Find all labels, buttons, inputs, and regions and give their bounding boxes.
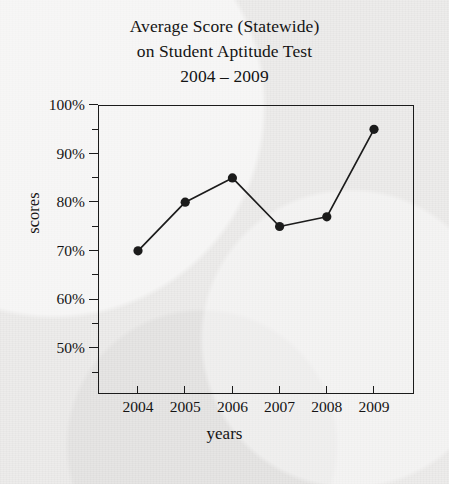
data-point-marker[interactable]: 2005: 80% bbox=[181, 198, 190, 207]
x-axis-tick-label: 2006 bbox=[205, 398, 259, 416]
chart-title: Average Score (Statewide) on Student Apt… bbox=[0, 14, 449, 89]
x-axis-tick-label: 2008 bbox=[300, 398, 354, 416]
x-axis-label: years bbox=[0, 424, 449, 444]
chart-page: Average Score (Statewide) on Student Apt… bbox=[0, 0, 449, 484]
y-axis-tick-major bbox=[89, 347, 98, 348]
x-axis-tick-label: 2009 bbox=[347, 398, 401, 416]
data-point-marker[interactable]: 2007: 75% bbox=[275, 222, 284, 231]
data-point-marker[interactable]: 2004: 70% bbox=[133, 246, 142, 255]
y-axis-tick-major bbox=[89, 104, 98, 105]
y-axis-tick-major bbox=[89, 201, 98, 202]
y-axis-tick-label: 90% bbox=[23, 146, 85, 162]
y-axis-tick-label: 100% bbox=[23, 97, 85, 113]
x-axis-tick-label: 2004 bbox=[111, 398, 165, 416]
y-axis-tick-label: 60% bbox=[23, 291, 85, 307]
data-point-marker[interactable]: 2009: 95% bbox=[369, 125, 378, 134]
y-axis-tick-major bbox=[89, 299, 98, 300]
y-axis-label: scores bbox=[24, 173, 44, 253]
y-axis-tick-label: 50% bbox=[23, 340, 85, 356]
plot-series-layer: 2004: 70%2005: 80%2006: 85%2007: 75%2008… bbox=[98, 105, 414, 394]
chart-title-line-3: 2004 – 2009 bbox=[0, 64, 449, 89]
data-point-marker[interactable]: 2008: 77% bbox=[322, 212, 331, 221]
chart-title-line-1: Average Score (Statewide) bbox=[0, 14, 449, 39]
chart-title-line-2: on Student Aptitude Test bbox=[0, 39, 449, 64]
x-axis-tick-label: 2005 bbox=[158, 398, 212, 416]
y-axis-tick-major bbox=[89, 153, 98, 154]
series-line bbox=[138, 129, 374, 251]
x-axis-tick-label: 2007 bbox=[253, 398, 307, 416]
data-point-marker[interactable]: 2006: 85% bbox=[228, 173, 237, 182]
y-axis-tick-major bbox=[89, 250, 98, 251]
